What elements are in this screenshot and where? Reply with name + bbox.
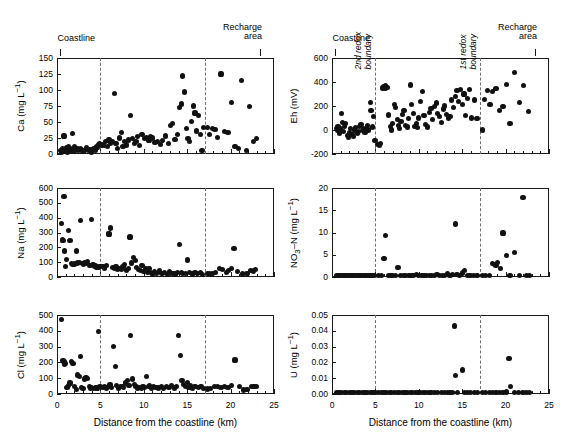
x-tick-mark-minor bbox=[213, 391, 214, 394]
annotation-2nd-redox-boundary: 2nd redoxboundary bbox=[355, 32, 375, 70]
y-tick-mark bbox=[57, 188, 61, 189]
data-point bbox=[80, 386, 85, 391]
boundary-line-1st-redox bbox=[480, 315, 481, 394]
boundary-line-1st-redox bbox=[205, 58, 206, 154]
data-point bbox=[507, 121, 512, 126]
x-tick-mark-minor bbox=[126, 151, 127, 154]
panel-ca: 0255075100125150Ca (mg L−1) bbox=[57, 58, 274, 154]
data-point bbox=[421, 113, 426, 118]
y-tick-mark bbox=[57, 203, 61, 204]
data-point bbox=[385, 85, 390, 90]
data-point bbox=[453, 221, 458, 226]
y-tick-mark bbox=[57, 74, 61, 75]
x-tick-mark-major bbox=[231, 272, 232, 277]
data-point bbox=[368, 100, 373, 105]
x-tick-label: 0 bbox=[37, 401, 77, 410]
x-axis-label: Distance from the coastline (km) bbox=[37, 417, 294, 428]
data-point bbox=[339, 111, 344, 116]
x-tick-label: 10 bbox=[124, 401, 164, 410]
data-point bbox=[381, 256, 386, 261]
x-tick-mark-minor bbox=[497, 274, 498, 277]
plot-frame bbox=[57, 315, 274, 394]
x-tick-mark-major bbox=[549, 272, 550, 277]
x-tick-mark-minor bbox=[135, 274, 136, 277]
y-tick-label: 600 bbox=[284, 54, 328, 63]
data-point bbox=[408, 82, 413, 87]
x-tick-mark-minor bbox=[488, 151, 489, 154]
figure-root: 0255075100125150Ca (mg L−1)-200020040060… bbox=[0, 0, 575, 435]
boundary-line-1st-redox bbox=[480, 58, 481, 154]
x-tick-mark-minor bbox=[161, 151, 162, 154]
x-tick-mark-minor bbox=[401, 151, 402, 154]
y-tick-mark bbox=[332, 315, 336, 316]
data-point bbox=[507, 273, 512, 278]
y-tick-label: 25 bbox=[9, 134, 53, 143]
x-tick-mark-minor bbox=[109, 151, 110, 154]
data-point bbox=[74, 387, 79, 392]
data-point bbox=[520, 195, 525, 200]
x-tick-mark-major bbox=[506, 149, 507, 154]
annotation-tick bbox=[535, 49, 536, 56]
y-tick-mark bbox=[57, 347, 61, 348]
x-tick-mark-minor bbox=[83, 274, 84, 277]
data-point bbox=[379, 273, 384, 278]
data-point bbox=[77, 374, 82, 379]
data-point bbox=[474, 116, 479, 121]
annotation-1st-redox-boundary: 1st redoxboundary bbox=[459, 34, 479, 69]
data-point bbox=[504, 82, 509, 87]
data-point bbox=[127, 234, 132, 239]
data-point bbox=[500, 230, 505, 235]
x-tick-mark-major bbox=[462, 149, 463, 154]
data-point bbox=[130, 376, 135, 381]
x-tick-mark-major bbox=[332, 389, 333, 394]
y-axis-label: U (mg L−1) bbox=[286, 332, 299, 378]
data-point bbox=[166, 141, 171, 146]
boundary-line-1st-redox bbox=[205, 188, 206, 277]
data-point bbox=[401, 108, 406, 113]
x-tick-mark-minor bbox=[170, 151, 171, 154]
x-tick-mark-minor bbox=[410, 151, 411, 154]
x-tick-mark-minor bbox=[222, 274, 223, 277]
x-tick-mark-minor bbox=[152, 151, 153, 154]
x-tick-mark-major bbox=[231, 389, 232, 394]
x-tick-mark-minor bbox=[135, 391, 136, 394]
x-tick-mark-minor bbox=[109, 274, 110, 277]
y-tick-mark bbox=[57, 247, 61, 248]
y-tick-mark bbox=[332, 378, 336, 379]
y-tick-label: 100 bbox=[9, 258, 53, 267]
x-tick-mark-minor bbox=[454, 151, 455, 154]
data-point bbox=[487, 102, 492, 107]
x-tick-mark-major bbox=[549, 389, 550, 394]
x-tick-mark-minor bbox=[427, 151, 428, 154]
x-tick-label: 5 bbox=[355, 401, 395, 410]
data-point bbox=[189, 119, 194, 124]
x-tick-mark-minor bbox=[497, 151, 498, 154]
y-tick-mark bbox=[332, 188, 336, 189]
data-point bbox=[512, 70, 517, 75]
x-tick-mark-minor bbox=[239, 151, 240, 154]
data-point bbox=[480, 127, 485, 132]
data-point bbox=[506, 356, 511, 361]
data-point bbox=[70, 361, 75, 366]
data-point bbox=[66, 228, 71, 233]
x-tick-label: 20 bbox=[211, 401, 251, 410]
x-tick-mark-major bbox=[332, 272, 333, 277]
y-tick-label: 0 bbox=[284, 273, 328, 282]
y-tick-label: -200 bbox=[284, 150, 328, 159]
y-tick-mark bbox=[332, 362, 336, 363]
x-tick-mark-major bbox=[57, 389, 58, 394]
y-tick-mark bbox=[57, 378, 61, 379]
y-tick-mark bbox=[57, 106, 61, 107]
x-tick-mark-major bbox=[419, 149, 420, 154]
y-axis-label: Na (mg L−1) bbox=[13, 207, 26, 258]
data-point bbox=[74, 248, 79, 253]
x-tick-mark-minor bbox=[265, 151, 266, 154]
data-point bbox=[455, 390, 460, 395]
data-point bbox=[229, 383, 234, 388]
x-tick-mark-minor bbox=[257, 151, 258, 154]
x-tick-mark-major bbox=[332, 149, 333, 154]
x-tick-mark-minor bbox=[257, 274, 258, 277]
data-point bbox=[447, 114, 452, 119]
data-point bbox=[472, 97, 477, 102]
data-point bbox=[451, 105, 456, 110]
